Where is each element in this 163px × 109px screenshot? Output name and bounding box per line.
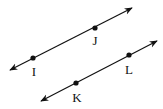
parallel-lines-diagram: IJKL bbox=[0, 0, 163, 109]
line-IJ bbox=[10, 8, 132, 70]
point-k bbox=[73, 80, 78, 85]
point-label-k: K bbox=[72, 90, 82, 105]
line-KL bbox=[41, 41, 157, 101]
diagram-svg: IJKL bbox=[0, 0, 163, 109]
point-i bbox=[30, 55, 35, 60]
point-label-i: I bbox=[32, 64, 36, 79]
point-label-l: L bbox=[125, 62, 133, 77]
point-label-j: J bbox=[92, 33, 97, 48]
point-l bbox=[126, 52, 131, 57]
point-j bbox=[92, 25, 97, 30]
